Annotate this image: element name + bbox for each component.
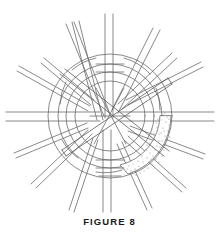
figure-illustration: FIGURE 8 — [0, 0, 219, 241]
woven-hub-drawing — [0, 0, 219, 241]
spoke-w — [6, 112, 100, 121]
stippled-ring-arc — [120, 113, 171, 176]
spoke-nw — [41, 58, 94, 105]
spoke-n — [105, 14, 113, 118]
spoke-ne — [112, 28, 160, 113]
spoke-ssw — [69, 138, 98, 212]
spoke-wnw — [17, 66, 90, 111]
spoke-s — [103, 130, 111, 212]
figure-caption: FIGURE 8 — [0, 216, 219, 227]
